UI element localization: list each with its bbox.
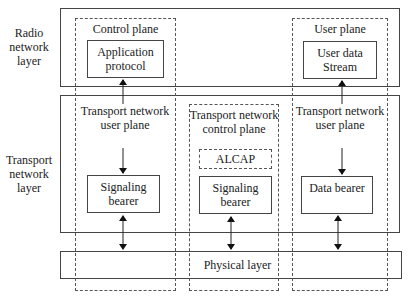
arrows-overlay [0,0,409,298]
